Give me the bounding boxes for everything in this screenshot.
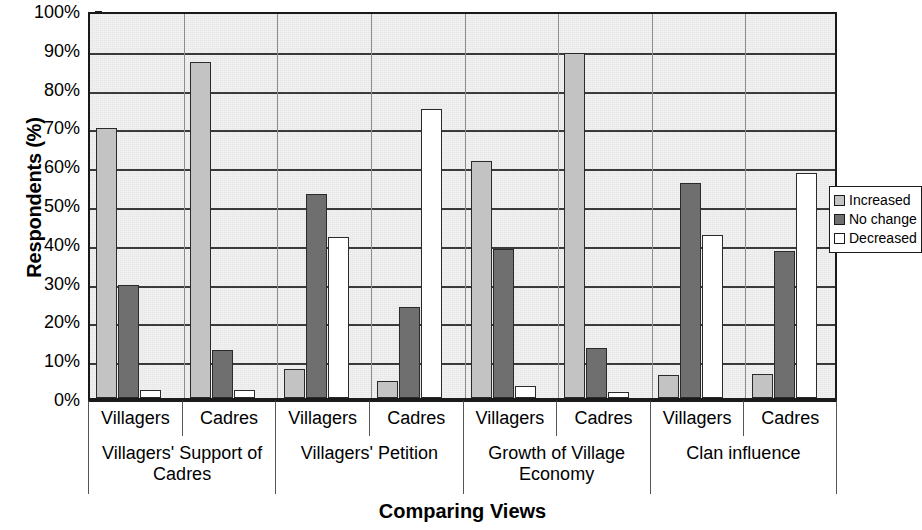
x-axis-group-label-text: Villagers' Support of Cadres xyxy=(89,443,275,485)
y-axis-tick-label: 70% xyxy=(14,119,80,137)
legend-item-label: Decreased xyxy=(849,231,917,246)
legend-swatch-nochange-icon xyxy=(834,214,845,225)
y-axis-tick-label: 80% xyxy=(14,81,80,99)
x-axis-category-label: Cadres xyxy=(743,400,837,436)
x-axis-group-label-text: Villagers' Petition xyxy=(276,443,462,464)
bar-increased xyxy=(190,62,211,398)
x-axis-category-label: Villagers xyxy=(88,400,182,436)
bar-decreased xyxy=(140,390,161,398)
x-axis-title: Comparing Views xyxy=(88,500,837,523)
bar-increased xyxy=(377,381,398,398)
y-axis-tick-labels: 0%10%20%30%40%50%60%70%80%90%100% xyxy=(14,0,80,412)
bar-decreased xyxy=(515,386,536,398)
y-axis-tick-label: 40% xyxy=(14,236,80,254)
y-axis-tick-label: 50% xyxy=(14,197,80,215)
bar-increased xyxy=(471,161,492,398)
y-axis-tick-label: 60% xyxy=(14,158,80,176)
x-axis-group-label: Villagers' Support of Cadres xyxy=(88,436,275,494)
bar-increased xyxy=(658,375,679,398)
y-axis-tick-label: 20% xyxy=(14,313,80,331)
x-axis-category-label: Cadres xyxy=(182,400,276,436)
bar-nochange xyxy=(212,350,233,399)
x-axis-group-label-text: Growth of Village Economy xyxy=(464,443,650,485)
x-axis-group-label-text: Clan influence xyxy=(651,443,836,464)
bar-series-container xyxy=(90,14,835,398)
bar-decreased xyxy=(702,235,723,398)
y-axis-tick-label: 0% xyxy=(14,391,80,409)
legend-item-label: Increased xyxy=(849,193,910,208)
plot-area xyxy=(88,12,837,400)
legend-swatch-decreased-icon xyxy=(834,233,845,244)
y-axis-tick-label: 10% xyxy=(14,352,80,370)
bar-decreased xyxy=(421,109,442,398)
x-axis-category-label: Villagers xyxy=(463,400,557,436)
legend-swatch-increased-icon xyxy=(834,195,845,206)
x-axis-category-label: Cadres xyxy=(369,400,463,436)
x-axis-category-label: Cadres xyxy=(556,400,650,436)
bar-nochange xyxy=(118,285,139,398)
y-axis-tick-label: 90% xyxy=(14,42,80,60)
x-axis-label-band: VillagersCadresVillagersCadresVillagersC… xyxy=(88,400,837,494)
bar-nochange xyxy=(493,249,514,398)
bar-increased xyxy=(564,53,585,398)
bar-increased xyxy=(752,374,773,398)
bar-decreased xyxy=(796,173,817,398)
bar-chart-figure: Respondents (%) 0%10%20%30%40%50%60%70%8… xyxy=(0,0,922,530)
y-axis-tick-label: 100% xyxy=(14,3,80,21)
x-axis-group-label: Villagers' Petition xyxy=(275,436,462,494)
x-axis-category-label: Villagers xyxy=(275,400,369,436)
bar-increased xyxy=(96,128,117,398)
x-axis-tier-topic: Villagers' Support of CadresVillagers' P… xyxy=(88,436,837,494)
bar-nochange xyxy=(306,194,327,398)
bar-nochange xyxy=(586,348,607,398)
legend-item-label: No change xyxy=(849,212,917,227)
legend-item: No change xyxy=(834,210,918,229)
bar-increased xyxy=(284,369,305,398)
y-axis-tick-label: 30% xyxy=(14,275,80,293)
bar-nochange xyxy=(680,183,701,398)
x-axis-group-label: Clan influence xyxy=(650,436,837,494)
x-axis-category-label: Villagers xyxy=(650,400,744,436)
legend: IncreasedNo changeDecreased xyxy=(829,186,922,253)
legend-item: Decreased xyxy=(834,229,918,248)
bar-decreased xyxy=(234,390,255,398)
x-axis-tier-respondent-type: VillagersCadresVillagersCadresVillagersC… xyxy=(88,400,837,436)
bar-decreased xyxy=(608,392,629,398)
bar-nochange xyxy=(774,251,795,398)
bar-decreased xyxy=(328,237,349,398)
legend-item: Increased xyxy=(834,191,918,210)
x-axis-group-label: Growth of Village Economy xyxy=(463,436,650,494)
bar-nochange xyxy=(399,307,420,398)
